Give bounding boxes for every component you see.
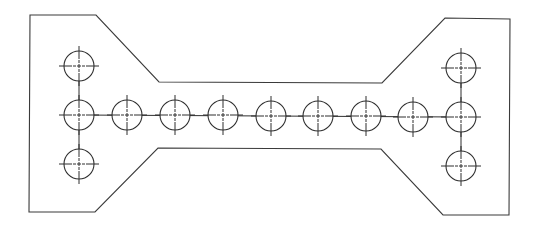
bolt-hole	[155, 95, 195, 135]
bolt-hole	[441, 48, 481, 88]
bolt-hole	[441, 146, 481, 186]
bolt-hole	[59, 144, 99, 184]
bolt-hole	[298, 96, 338, 136]
bolt-hole	[393, 97, 433, 137]
bolt-hole	[346, 96, 386, 136]
bolt-hole	[59, 46, 99, 86]
bolt-hole	[441, 97, 481, 137]
bolt-hole	[59, 95, 99, 135]
bolt-hole	[251, 96, 291, 136]
bolt-hole-pattern	[59, 46, 481, 186]
technical-drawing	[0, 0, 535, 226]
bolt-hole	[107, 95, 147, 135]
bolt-hole	[203, 95, 243, 135]
